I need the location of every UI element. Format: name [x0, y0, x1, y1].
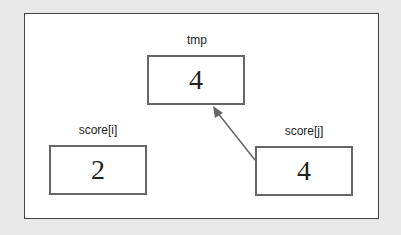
arrow-score-j-to-tmp	[0, 0, 401, 235]
